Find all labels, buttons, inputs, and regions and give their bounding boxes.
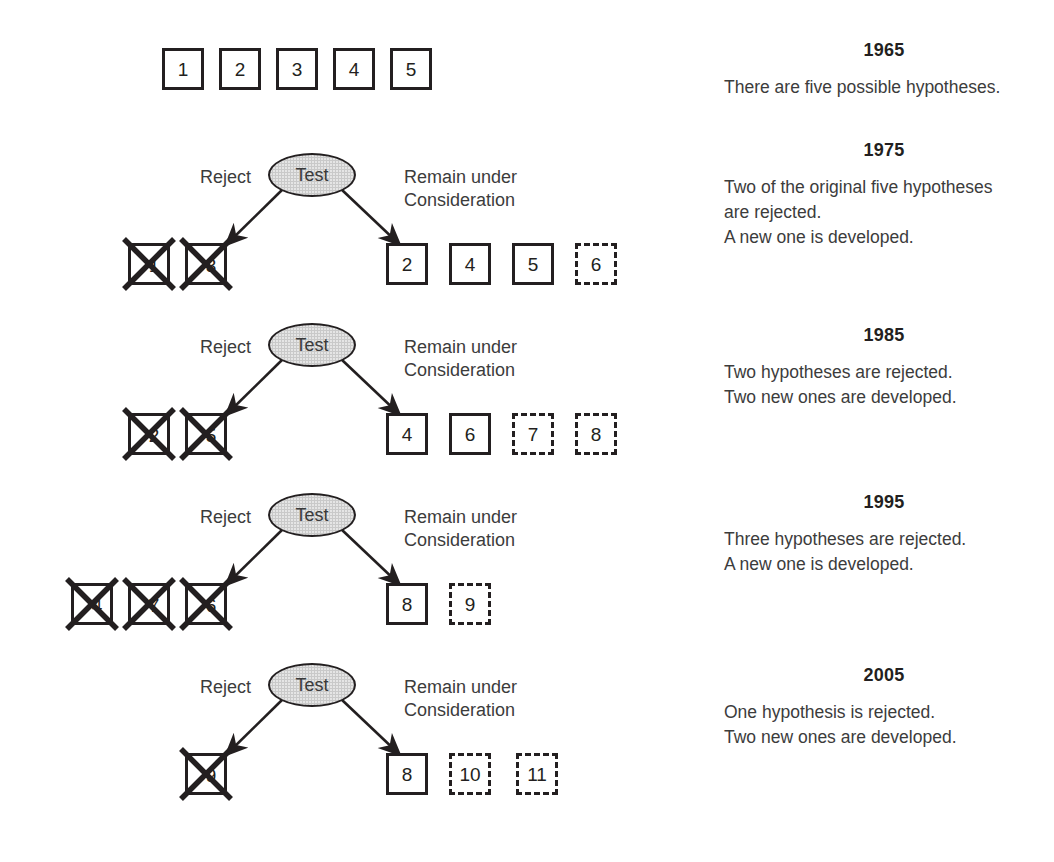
hypothesis-box-label: 5 (406, 60, 417, 79)
hypothesis-box-label: 2 (235, 60, 246, 79)
note-year: 1995 (724, 492, 1044, 513)
remaining-hypothesis-box[interactable]: 2 (386, 243, 428, 285)
new-hypothesis-box[interactable]: 8 (575, 413, 617, 455)
test-node[interactable]: Test (268, 323, 356, 367)
new-hypothesis-box[interactable]: 11 (516, 753, 558, 795)
rejected-hypothesis-box[interactable]: 9 (185, 753, 227, 795)
remaining-hypothesis-box[interactable]: 4 (386, 413, 428, 455)
note-1975: 1975 Two of the original five hypotheses… (724, 140, 1044, 250)
hypothesis-box[interactable]: 4 (333, 48, 375, 90)
hypothesis-box-label: 9 (206, 766, 217, 785)
rejected-hypothesis-box[interactable]: 6 (185, 583, 227, 625)
remain-label: Remain under Consideration (404, 676, 517, 722)
remain-label: Remain under Consideration (404, 506, 517, 552)
new-hypothesis-box[interactable]: 9 (449, 583, 491, 625)
hypothesis-box-label: 1 (178, 60, 189, 79)
rejected-hypothesis-box[interactable]: 4 (71, 583, 113, 625)
reject-label: Reject (200, 676, 251, 699)
hypothesis-box-label: 6 (206, 596, 217, 615)
remain-label: Remain under Consideration (404, 166, 517, 212)
hypothesis-box-label: 5 (528, 255, 539, 274)
hypothesis-box-label: 4 (349, 60, 360, 79)
remaining-hypothesis-box[interactable]: 6 (449, 413, 491, 455)
hypothesis-box-label: 6 (465, 425, 476, 444)
remaining-hypothesis-box[interactable]: 8 (386, 753, 428, 795)
hypothesis-box-label: 2 (402, 255, 413, 274)
hypothesis-box-label: 8 (591, 425, 602, 444)
note-body: Two hypotheses are rejected. Two new one… (724, 360, 1044, 410)
remain-label: Remain under Consideration (404, 336, 517, 382)
hypothesis-box-label: 4 (402, 425, 413, 444)
hypothesis-box-label: 10 (459, 765, 480, 784)
rejected-hypothesis-box[interactable]: 1 (128, 243, 170, 285)
note-body: One hypothesis is rejected. Two new ones… (724, 700, 1044, 750)
test-node-label: Test (295, 165, 328, 186)
reject-label: Reject (200, 336, 251, 359)
remaining-hypothesis-box[interactable]: 5 (512, 243, 554, 285)
test-node-label: Test (295, 505, 328, 526)
new-hypothesis-box[interactable]: 10 (449, 753, 491, 795)
test-node-label: Test (295, 335, 328, 356)
hypothesis-box-label: 9 (465, 595, 476, 614)
hypothesis-box-label: 1 (149, 256, 160, 275)
rejected-hypothesis-box[interactable]: 7 (128, 583, 170, 625)
note-2005: 2005 One hypothesis is rejected. Two new… (724, 665, 1044, 750)
hypothesis-box-label: 3 (292, 60, 303, 79)
note-1965: 1965 There are five possible hypotheses. (724, 40, 1044, 100)
note-1995: 1995 Three hypotheses are rejected. A ne… (724, 492, 1044, 577)
reject-label: Reject (200, 506, 251, 529)
note-body: There are five possible hypotheses. (724, 75, 1044, 100)
hypothesis-box[interactable]: 2 (219, 48, 261, 90)
hypothesis-box-label: 4 (92, 596, 103, 615)
rejected-hypothesis-box[interactable]: 5 (185, 413, 227, 455)
hypothesis-box[interactable]: 5 (390, 48, 432, 90)
hypothesis-box-label: 5 (206, 426, 217, 445)
hypothesis-flow-diagram: 1 2 3 4 5 Test Reject Remain under Consi… (0, 0, 680, 862)
remaining-hypothesis-box[interactable]: 4 (449, 243, 491, 285)
note-body: Three hypotheses are rejected. A new one… (724, 527, 1044, 577)
note-year: 2005 (724, 665, 1044, 686)
note-1985: 1985 Two hypotheses are rejected. Two ne… (724, 325, 1044, 410)
new-hypothesis-box[interactable]: 6 (575, 243, 617, 285)
remaining-hypothesis-box[interactable]: 8 (386, 583, 428, 625)
hypothesis-box-label: 6 (591, 255, 602, 274)
test-node[interactable]: Test (268, 663, 356, 707)
hypothesis-box-label: 7 (528, 425, 539, 444)
note-year: 1985 (724, 325, 1044, 346)
test-node-label: Test (295, 675, 328, 696)
test-node[interactable]: Test (268, 493, 356, 537)
reject-label: Reject (200, 166, 251, 189)
hypothesis-box-label: 2 (149, 426, 160, 445)
timeline-notes: 1965 There are five possible hypotheses.… (724, 0, 1044, 862)
rejected-hypothesis-box[interactable]: 3 (185, 243, 227, 285)
hypothesis-box-label: 4 (465, 255, 476, 274)
new-hypothesis-box[interactable]: 7 (512, 413, 554, 455)
diagram-canvas: 1 2 3 4 5 Test Reject Remain under Consi… (0, 0, 1054, 862)
hypothesis-box-label: 7 (149, 596, 160, 615)
hypothesis-box-label: 3 (206, 256, 217, 275)
hypothesis-box-label: 8 (402, 595, 413, 614)
hypothesis-box-label: 11 (527, 765, 547, 784)
hypothesis-box[interactable]: 3 (276, 48, 318, 90)
note-body: Two of the original five hypotheses are … (724, 175, 1044, 250)
note-year: 1965 (724, 40, 1044, 61)
note-year: 1975 (724, 140, 1044, 161)
hypothesis-box-label: 8 (402, 765, 413, 784)
test-node[interactable]: Test (268, 153, 356, 197)
rejected-hypothesis-box[interactable]: 2 (128, 413, 170, 455)
hypothesis-box[interactable]: 1 (162, 48, 204, 90)
